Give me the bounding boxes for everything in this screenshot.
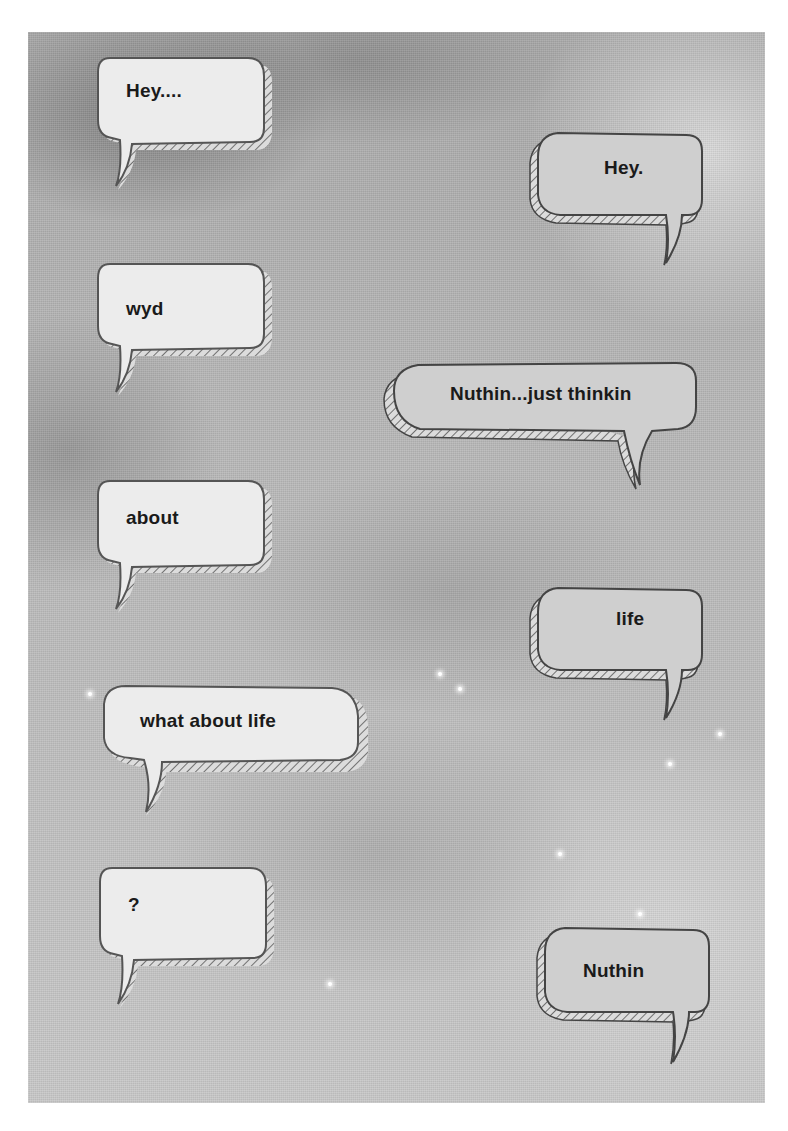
message-text: what about life bbox=[140, 710, 276, 732]
speech-bubble-shape bbox=[98, 864, 278, 1014]
message-bubble-left: ? bbox=[98, 864, 278, 1014]
message-text: wyd bbox=[126, 298, 164, 320]
message-bubble-left: wyd bbox=[96, 260, 276, 400]
message-text: ? bbox=[128, 894, 140, 916]
star-sparkle bbox=[668, 762, 672, 766]
speech-bubble-shape bbox=[526, 582, 716, 722]
message-text: Hey. bbox=[604, 157, 644, 179]
message-bubble-left: what about life bbox=[100, 680, 390, 820]
speech-bubble-shape bbox=[100, 680, 390, 820]
star-sparkle bbox=[638, 912, 642, 916]
speech-bubble-shape bbox=[96, 477, 276, 617]
speech-bubble-shape bbox=[533, 922, 723, 1067]
message-text: life bbox=[616, 608, 644, 630]
message-bubble-right: Hey. bbox=[526, 127, 716, 267]
star-sparkle bbox=[718, 732, 722, 736]
message-text: about bbox=[126, 507, 179, 529]
chat-background: Hey.... Hey. wyd Nuthin...just thinkin a… bbox=[28, 32, 765, 1103]
message-text: Nuthin bbox=[583, 960, 644, 982]
star-sparkle bbox=[438, 672, 442, 676]
star-sparkle bbox=[88, 692, 92, 696]
speech-bubble-shape bbox=[96, 260, 276, 400]
message-bubble-right: life bbox=[526, 582, 716, 722]
message-bubble-left: about bbox=[96, 477, 276, 617]
message-text: Hey.... bbox=[126, 80, 182, 102]
star-sparkle bbox=[328, 982, 332, 986]
speech-bubble-shape bbox=[96, 54, 276, 194]
message-bubble-left: Hey.... bbox=[96, 54, 276, 194]
message-text: Nuthin...just thinkin bbox=[450, 383, 632, 405]
speech-bubble-shape bbox=[526, 127, 716, 267]
message-bubble-right: Nuthin...just thinkin bbox=[378, 357, 708, 497]
message-bubble-right: Nuthin bbox=[533, 922, 723, 1067]
speech-bubble-shape bbox=[378, 357, 708, 497]
star-sparkle bbox=[458, 687, 462, 691]
star-sparkle bbox=[558, 852, 562, 856]
